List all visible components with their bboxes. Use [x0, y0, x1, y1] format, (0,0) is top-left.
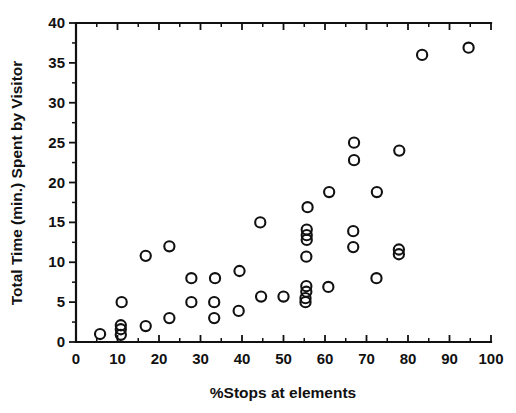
y-tick-label: 20 [48, 174, 65, 191]
x-tick-label: 30 [192, 350, 209, 367]
x-tick-label: 100 [478, 350, 503, 367]
y-tick-label: 10 [48, 253, 65, 270]
x-tick-label: 10 [109, 350, 126, 367]
y-tick-label: 5 [57, 293, 65, 310]
y-tick-label: 0 [57, 333, 65, 350]
x-tick-label: 20 [151, 350, 168, 367]
x-tick-label: 80 [400, 350, 417, 367]
y-tick-label: 35 [48, 54, 65, 71]
x-tick-label: 70 [358, 350, 375, 367]
x-tick-label: 0 [72, 350, 80, 367]
scatter-plot-figure: 0102030405060708090100 0510152025303540 … [0, 0, 516, 413]
y-tick-label: 15 [48, 213, 65, 230]
y-tick-label: 30 [48, 94, 65, 111]
y-tick-label: 40 [48, 14, 65, 31]
y-axis-title: Total Time (min.) Spent by Visitor [8, 61, 25, 306]
x-tick-label: 60 [317, 350, 334, 367]
x-tick-label: 50 [275, 350, 292, 367]
chart-canvas: 0102030405060708090100 0510152025303540 … [0, 0, 516, 413]
x-tick-label: 40 [234, 350, 251, 367]
x-axis-title: %Stops at elements [210, 384, 356, 401]
x-tick-label: 90 [441, 350, 458, 367]
y-tick-label: 25 [48, 134, 65, 151]
